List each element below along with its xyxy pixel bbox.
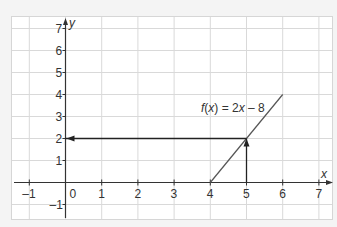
x-tick-label: –1 (22, 187, 36, 201)
x-tick-label: 2 (134, 187, 141, 201)
y-axis-label: y (68, 16, 76, 30)
function-label: f(x) = 2x – 8 (201, 101, 265, 115)
x-tick-label: 5 (243, 187, 250, 201)
x-axis-label: x (320, 167, 328, 181)
x-tick-label: 4 (207, 187, 214, 201)
x-tick-label: 7 (315, 187, 322, 201)
y-tick-label: 1 (56, 154, 63, 168)
y-tick-label: 4 (56, 88, 63, 102)
y-tick-label: 7 (56, 22, 63, 36)
y-tick-label: 6 (56, 44, 63, 58)
y-tick-label: –1 (50, 198, 64, 212)
x-tick-label: 6 (279, 187, 286, 201)
x-tick-label: 3 (171, 187, 178, 201)
graph: –101234567–11234567 f(x) = 2x – 8 x y (0, 0, 337, 227)
y-tick-label: 3 (56, 110, 63, 124)
x-tick-label: 0 (70, 187, 77, 201)
y-tick-label: 5 (56, 66, 63, 80)
x-tick-label: 1 (98, 187, 105, 201)
y-tick-label: 2 (56, 132, 63, 146)
